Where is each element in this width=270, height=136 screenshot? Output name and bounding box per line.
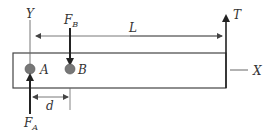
length-label: L [128, 21, 137, 35]
point-b [65, 64, 75, 74]
beam-force-diagram: Y L FB A B T X FA d [0, 0, 270, 136]
distance-label: d [46, 99, 54, 113]
x-axis-label: X [252, 64, 262, 78]
y-axis-label: Y [26, 7, 35, 21]
point-a-label: A [39, 63, 49, 77]
point-b-label: B [77, 63, 87, 77]
point-a [25, 64, 35, 74]
force-b-label: FB [63, 13, 78, 29]
force-a-label: FA [23, 116, 38, 132]
tension-label: T [233, 8, 242, 22]
